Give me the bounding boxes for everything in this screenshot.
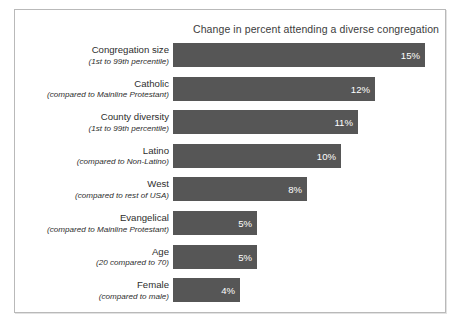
bar-category-name: Evangelical — [9, 212, 169, 224]
bar-category-label: Evangelical(compared to Mainline Protest… — [9, 212, 169, 235]
bar-row: Female(compared to male)4% — [15, 278, 447, 302]
bar-category-name: Female — [9, 279, 169, 291]
bar-category-label: West(compared to rest of USA) — [9, 178, 169, 201]
bar: 11% — [173, 110, 358, 134]
bar-category-sublabel: (1st to 99th percentile) — [9, 55, 169, 67]
bar-category-sublabel: (compared to Mainline Protestant) — [9, 223, 169, 235]
bar-row: Evangelical(compared to Mainline Protest… — [15, 211, 447, 235]
chart-frame: Change in percent attending a diverse co… — [14, 9, 446, 313]
bar-category-name: Age — [9, 245, 169, 257]
bar-row: Congregation size(1st to 99th percentile… — [15, 43, 447, 67]
bar: 10% — [173, 144, 341, 168]
figure-canvas: Change in percent attending a diverse co… — [0, 0, 458, 327]
bar: 5% — [173, 211, 257, 235]
bar-row: Latino(compared to Non-Latino)10% — [15, 144, 447, 168]
bar-category-sublabel: (compared to rest of USA) — [9, 189, 169, 201]
bar-category-label: Latino(compared to Non-Latino) — [9, 144, 169, 167]
bar-value-label: 15% — [401, 50, 420, 61]
bar-row: County diversity(1st to 99th percentile)… — [15, 110, 447, 134]
bar-value-label: 11% — [335, 117, 354, 128]
bar-category-sublabel: (compared to Non-Latino) — [9, 156, 169, 168]
bar-category-name: West — [9, 178, 169, 190]
bar-value-label: 4% — [221, 285, 235, 296]
bar-value-label: 5% — [238, 218, 252, 229]
bar: 4% — [173, 278, 240, 302]
bar: 15% — [173, 43, 425, 67]
bar-value-label: 5% — [238, 251, 252, 262]
bar: 8% — [173, 177, 307, 201]
bar-value-label: 12% — [351, 83, 370, 94]
bar: 5% — [173, 245, 257, 269]
bar-category-sublabel: (compared to male) — [9, 290, 169, 302]
bar-row: West(compared to rest of USA)8% — [15, 177, 447, 201]
bar-category-label: Age(20 compared to 70) — [9, 245, 169, 268]
bar-category-label: Catholic(compared to Mainline Protestant… — [9, 77, 169, 100]
bar-category-sublabel: (20 compared to 70) — [9, 257, 169, 269]
bar-value-label: 10% — [317, 150, 336, 161]
bar-row: Catholic(compared to Mainline Protestant… — [15, 77, 447, 101]
bar-category-sublabel: (1st to 99th percentile) — [9, 122, 169, 134]
bar-category-name: Catholic — [9, 77, 169, 89]
bar-category-name: Latino — [9, 144, 169, 156]
bar-value-label: 8% — [288, 184, 302, 195]
plot-area: Congregation size(1st to 99th percentile… — [15, 10, 447, 314]
bar-category-label: Female(compared to male) — [9, 279, 169, 302]
bar-category-name: Congregation size — [9, 44, 169, 56]
bar-category-sublabel: (compared to Mainline Protestant) — [9, 89, 169, 101]
bar-row: Age(20 compared to 70)5% — [15, 245, 447, 269]
bar-category-name: County diversity — [9, 111, 169, 123]
bar-category-label: Congregation size(1st to 99th percentile… — [9, 44, 169, 67]
bar: 12% — [173, 77, 375, 101]
bar-category-label: County diversity(1st to 99th percentile) — [9, 111, 169, 134]
